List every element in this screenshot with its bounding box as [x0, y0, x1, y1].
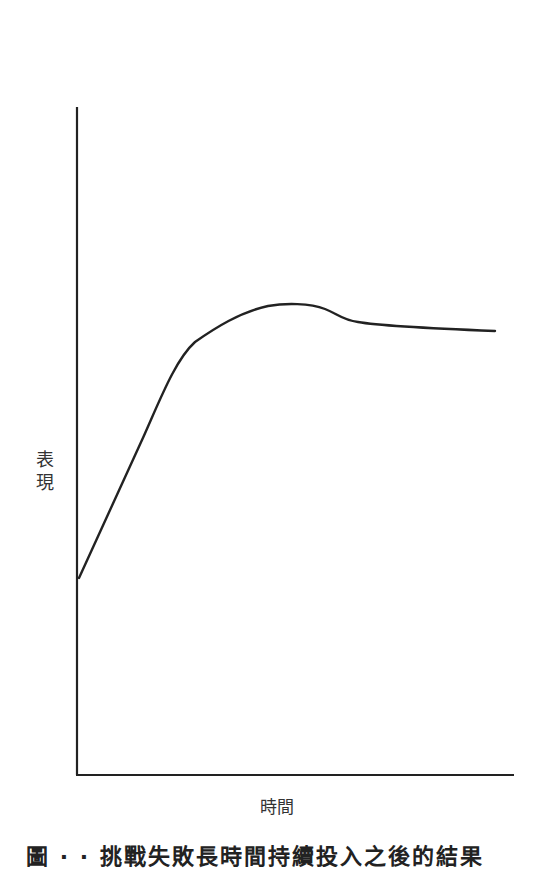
figure-caption: 圖 · · 挑戰失敗長時間持續投入之後的結果 [26, 838, 484, 870]
x-axis-label: 時間 [0, 793, 554, 818]
y-axis-label: 表現 [34, 448, 56, 494]
performance-curve [79, 304, 495, 578]
